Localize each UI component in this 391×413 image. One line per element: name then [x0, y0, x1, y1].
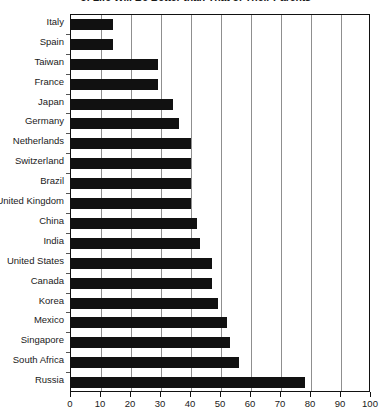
- x-axis-tick-80: [310, 392, 311, 397]
- bar-spain: [71, 39, 113, 50]
- y-axis-label-taiwan: Taiwan: [34, 56, 64, 67]
- bar-mexico: [71, 317, 227, 328]
- bar-row: [71, 95, 371, 115]
- x-axis-tick-label-10: 10: [95, 398, 106, 409]
- bar-row: [71, 75, 371, 95]
- y-axis-label-united-states: United States: [7, 255, 64, 266]
- bar-row: [71, 353, 371, 373]
- bar-germany: [71, 118, 179, 129]
- y-axis-category-labels: ItalySpainTaiwanFranceJapanGermanyNether…: [0, 14, 66, 392]
- bar-row: [71, 134, 371, 154]
- x-axis-tick-50: [220, 392, 221, 397]
- bar-row: [71, 154, 371, 174]
- y-axis-label-france: France: [34, 76, 64, 87]
- bar-canada: [71, 278, 212, 289]
- bar-row: [71, 234, 371, 254]
- bar-china: [71, 218, 197, 229]
- y-axis-label-italy: Italy: [47, 16, 64, 27]
- x-axis-tick-label-40: 40: [185, 398, 196, 409]
- bar-south-africa: [71, 357, 239, 368]
- x-axis-tick-label-30: 30: [155, 398, 166, 409]
- y-axis-label-switzerland: Switzerland: [15, 155, 64, 166]
- bar-row: [71, 214, 371, 234]
- bar-row: [71, 35, 371, 55]
- y-axis-label-india: India: [43, 235, 64, 246]
- y-axis-tick: [66, 94, 70, 95]
- y-axis-tick: [66, 312, 70, 313]
- x-axis-tick-90: [340, 392, 341, 397]
- x-axis-tick-100: [370, 392, 371, 397]
- bar-row: [71, 333, 371, 353]
- x-axis-tick-40: [190, 392, 191, 397]
- x-axis-tick-label-50: 50: [215, 398, 226, 409]
- bar-row: [71, 55, 371, 75]
- bar-row: [71, 174, 371, 194]
- y-axis-tick: [66, 193, 70, 194]
- bar-italy: [71, 19, 113, 30]
- y-axis-label-germany: Germany: [25, 115, 64, 126]
- bar-chart: of Life Will Be Better than That of Thei…: [0, 0, 391, 413]
- y-axis-tick: [66, 133, 70, 134]
- x-axis-tick-label-60: 60: [245, 398, 256, 409]
- y-axis-label-korea: Korea: [39, 295, 64, 306]
- x-axis-tick-10: [100, 392, 101, 397]
- x-axis-tick-label-90: 90: [335, 398, 346, 409]
- x-axis-tick-label-20: 20: [125, 398, 136, 409]
- x-axis-tick-0: [70, 392, 71, 397]
- y-axis-tick: [66, 213, 70, 214]
- y-axis-tick: [66, 352, 70, 353]
- y-axis-tick: [66, 372, 70, 373]
- bar-korea: [71, 298, 218, 309]
- bar-united-states: [71, 258, 212, 269]
- y-axis-tick: [66, 273, 70, 274]
- y-axis-tick: [66, 233, 70, 234]
- bar-japan: [71, 99, 173, 110]
- x-axis-tick-label-80: 80: [305, 398, 316, 409]
- y-axis-label-spain: Spain: [40, 36, 64, 47]
- y-axis-label-brazil: Brazil: [40, 175, 64, 186]
- x-axis-tick-30: [160, 392, 161, 397]
- x-axis: 0102030405060708090100: [70, 392, 370, 413]
- y-axis-tick: [66, 173, 70, 174]
- bar-brazil: [71, 178, 191, 189]
- y-axis-label-canada: Canada: [31, 275, 64, 286]
- bar-france: [71, 79, 158, 90]
- bar-india: [71, 238, 200, 249]
- y-axis-tick: [66, 74, 70, 75]
- y-axis-tick: [66, 253, 70, 254]
- bar-row: [71, 274, 371, 294]
- x-axis-tick-label-0: 0: [67, 398, 72, 409]
- bar-row: [71, 373, 371, 393]
- bar-switzerland: [71, 158, 191, 169]
- bar-row: [71, 254, 371, 274]
- bar-row: [71, 194, 371, 214]
- y-axis-label-japan: Japan: [38, 96, 64, 107]
- y-axis-tick: [66, 332, 70, 333]
- bar-row: [71, 15, 371, 35]
- x-axis-tick-label-100: 100: [362, 398, 378, 409]
- y-axis-label-south-africa: South Africa: [13, 354, 64, 365]
- x-axis-tick-60: [250, 392, 251, 397]
- bar-row: [71, 114, 371, 134]
- plot-area: [70, 14, 370, 392]
- y-axis-label-united-kingdom: United Kingdom: [0, 195, 64, 206]
- y-axis-tick: [66, 113, 70, 114]
- y-axis-label-singapore: Singapore: [21, 334, 64, 345]
- y-axis-label-russia: Russia: [35, 374, 64, 385]
- x-axis-tick-label-70: 70: [275, 398, 286, 409]
- y-axis-tick: [66, 153, 70, 154]
- bar-russia: [71, 377, 305, 388]
- bar-row: [71, 313, 371, 333]
- x-axis-tick-70: [280, 392, 281, 397]
- bar-row: [71, 294, 371, 314]
- bar-united-kingdom: [71, 198, 191, 209]
- chart-title: of Life Will Be Better than That of Thei…: [0, 0, 391, 3]
- y-axis-tick: [66, 34, 70, 35]
- bar-taiwan: [71, 59, 158, 70]
- y-axis-label-china: China: [39, 215, 64, 226]
- x-axis-tick-20: [130, 392, 131, 397]
- y-axis-label-netherlands: Netherlands: [13, 135, 64, 146]
- y-axis-tick: [66, 293, 70, 294]
- y-axis-tick: [66, 54, 70, 55]
- y-axis-label-mexico: Mexico: [34, 314, 64, 325]
